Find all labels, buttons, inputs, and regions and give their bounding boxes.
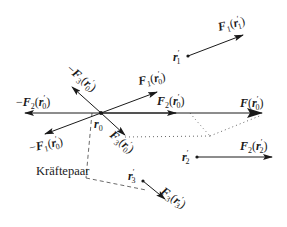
label-kraeftepaar: Kräftepaar xyxy=(36,164,90,178)
label-r3-prime: r′3 xyxy=(128,168,135,185)
label-F2-r2: F2(r′2) xyxy=(239,138,267,155)
arrow-F1-r1 xyxy=(188,35,243,56)
label-minus-F2-r0: −F2(r′0) xyxy=(16,94,50,111)
force-diagram: r0 r′1 r′2 r′3 F1(r′1) F2(r′2) F3(r′3) F… xyxy=(0,0,287,227)
label-F3-r3: F3(r′3) xyxy=(156,183,189,213)
label-minus-F3-r0: −F3(r′0) xyxy=(63,61,100,96)
label-r1-prime: r′1 xyxy=(173,49,180,66)
label-F-r0: F(r′0) xyxy=(239,95,263,112)
point-r3-dot xyxy=(141,179,144,182)
label-F3-r0: F3(r′0) xyxy=(105,126,138,157)
label-minus-F1-r0: −F1(r′0) xyxy=(28,133,65,157)
label-r0: r0 xyxy=(94,117,103,133)
arrow-F1-r0 xyxy=(101,92,157,113)
origin-forces xyxy=(25,87,262,135)
label-F1-r1: F1(r′1) xyxy=(215,13,247,36)
arrow-minus-F1-r0 xyxy=(45,113,101,134)
construction-dotted-lines xyxy=(125,113,262,137)
label-F2-r0: F2(r′0) xyxy=(156,93,184,110)
point-r1-dot xyxy=(186,54,189,57)
point-forces xyxy=(143,35,272,199)
origin-dot xyxy=(99,111,103,115)
label-F1-r0: F1(r′0) xyxy=(136,68,167,90)
point-r2-dot xyxy=(195,155,198,158)
label-r2-prime: r′2 xyxy=(182,149,189,166)
